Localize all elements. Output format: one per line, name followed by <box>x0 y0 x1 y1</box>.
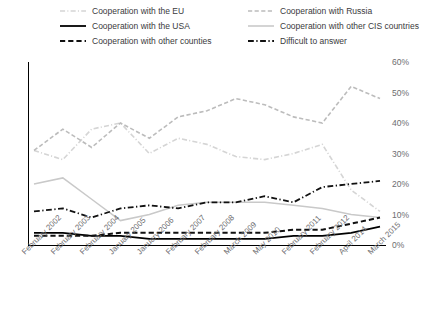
y-axis-tick-label: 20% <box>392 179 409 189</box>
series-line <box>34 123 380 211</box>
y-axis-tick-label: 60% <box>392 57 409 67</box>
legend-swatch-dashed-black-icon <box>60 36 86 46</box>
legend-item-label: Cooperation with Russia <box>280 6 372 16</box>
legend-item-cooperation-with-other-counties[interactable]: Cooperation with other counties <box>60 36 212 46</box>
series-line <box>34 86 380 150</box>
y-axis-tick-label: 50% <box>392 88 409 98</box>
legend-item-label: Cooperation with other counties <box>92 36 212 46</box>
legend-item-label: Cooperation with the EU <box>92 6 184 16</box>
legend-swatch-dash-dot-black-icon <box>248 36 274 46</box>
y-axis-tick-label: 30% <box>392 149 409 159</box>
y-axis-tick-label: 40% <box>392 118 409 128</box>
legend-swatch-dash-dot-light-icon <box>60 6 86 16</box>
series-line <box>34 181 380 218</box>
legend-item-label: Difficult to answer <box>280 36 347 46</box>
x-axis: February 2002February 2003February 2004J… <box>0 246 435 311</box>
legend-swatch-solid-black-icon <box>60 21 86 31</box>
legend-item-label: Cooperation with the USA <box>92 21 190 31</box>
legend-item-cooperation-with-the-eu[interactable]: Cooperation with the EU <box>60 6 184 16</box>
legend-item-cooperation-with-other-cis-countries[interactable]: Cooperation with other CIS countries <box>248 21 419 31</box>
legend-item-cooperation-with-the-usa[interactable]: Cooperation with the USA <box>60 21 190 31</box>
legend-swatch-dashed-gray-icon <box>248 6 274 16</box>
legend-item-difficult-to-answer[interactable]: Difficult to answer <box>248 36 347 46</box>
legend-item-cooperation-with-russia[interactable]: Cooperation with Russia <box>248 6 372 16</box>
line-chart: Cooperation with the EU Cooperation with… <box>0 0 435 311</box>
chart-legend: Cooperation with the EU Cooperation with… <box>60 6 410 56</box>
legend-item-label: Cooperation with other CIS countries <box>280 21 419 31</box>
y-axis-tick-label: 10% <box>392 210 409 220</box>
legend-swatch-solid-gray-icon <box>248 21 274 31</box>
